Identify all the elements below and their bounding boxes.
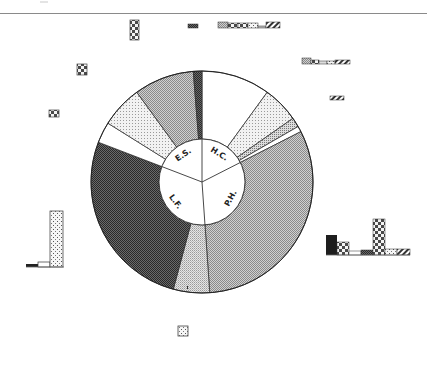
bar-group-right: [326, 219, 410, 255]
bar-glyph-top-left: [130, 20, 139, 40]
bar-glyph-right-hatch: [330, 96, 344, 100]
bar-group-left: [26, 211, 64, 267]
bar-glyph-upper-left: [77, 64, 87, 75]
donut-chart: H.C.P.H.L.F.E.S.: [0, 0, 427, 369]
bar-glyph-left-small: [49, 110, 59, 117]
bar-glyph-top-mid: [188, 24, 198, 28]
bar-glyph-top-strip: [218, 22, 280, 28]
bar-glyph-upper-right-strip: [302, 58, 350, 64]
bar-glyph-bottom: [178, 326, 188, 336]
small-mark: [187, 286, 188, 289]
